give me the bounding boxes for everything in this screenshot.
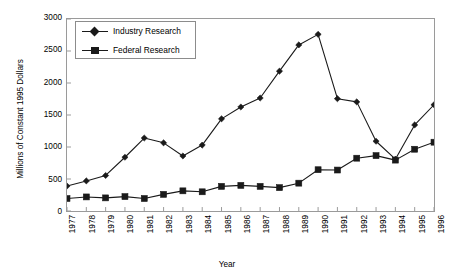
legend-item-industry-research: Industry Research	[76, 22, 195, 41]
data-point-square	[412, 146, 418, 152]
data-point-square	[276, 185, 282, 191]
y-tick-label: 2500	[36, 46, 62, 54]
data-point-square	[354, 155, 360, 161]
data-point-square	[83, 194, 89, 200]
data-point-square	[257, 183, 263, 189]
x-axis-title: Year	[0, 261, 454, 269]
data-point-square	[392, 157, 398, 163]
legend-label-federal-research: Federal Research	[108, 46, 180, 54]
legend-label-industry-research: Industry Research	[108, 27, 181, 35]
x-tick-label: 1991	[341, 215, 349, 255]
data-point-diamond	[180, 153, 186, 159]
data-point-square	[122, 194, 128, 200]
data-point-square	[334, 167, 340, 173]
square-marker-icon	[82, 45, 108, 57]
data-point-square	[431, 139, 434, 145]
x-tick-label: 1983	[186, 215, 194, 255]
x-tick-label: 1988	[283, 215, 291, 255]
data-point-square	[373, 153, 379, 159]
x-tick-label: 1989	[302, 215, 310, 255]
data-point-square	[238, 182, 244, 188]
data-point-diamond	[160, 140, 166, 146]
series-federal-research	[67, 139, 434, 201]
y-tick-label: 1000	[36, 143, 62, 151]
data-point-square	[296, 180, 302, 186]
x-tick-label: 1994	[399, 215, 407, 255]
data-point-diamond	[315, 31, 321, 37]
y-tick-label: 2000	[36, 79, 62, 87]
data-point-square	[103, 195, 109, 201]
y-axis-tick-labels: 050010001500200025003000	[36, 0, 62, 277]
x-tick-label: 1979	[108, 215, 116, 255]
data-point-square	[199, 189, 205, 195]
series-line	[67, 142, 434, 198]
data-point-square	[315, 167, 321, 173]
y-tick-label: 0	[36, 208, 62, 216]
x-tick-label: 1980	[127, 215, 135, 255]
data-point-square	[141, 196, 147, 202]
chart-legend: Industry Research Federal Research	[75, 21, 196, 59]
data-point-diamond	[83, 178, 89, 184]
y-axis-title-text: Millions of Constant 1995 Dollars	[17, 59, 25, 179]
line-chart: Millions of Constant 1995 Dollars 050010…	[0, 0, 454, 277]
x-tick-label: 1992	[361, 215, 369, 255]
data-point-diamond	[334, 96, 340, 102]
y-axis-title: Millions of Constant 1995 Dollars	[14, 44, 28, 194]
data-point-square	[180, 188, 186, 194]
data-point-diamond	[67, 183, 70, 189]
y-tick-label: 500	[36, 176, 62, 184]
x-tick-label: 1995	[419, 215, 427, 255]
x-tick-label: 1984	[205, 215, 213, 255]
x-tick-label: 1981	[147, 215, 155, 255]
legend-item-federal-research: Federal Research	[76, 41, 195, 60]
y-tick-label: 1500	[36, 111, 62, 119]
diamond-marker-icon	[82, 26, 108, 38]
x-tick-label: 1996	[438, 215, 446, 255]
data-point-square	[67, 196, 70, 202]
x-tick-label: 1993	[380, 215, 388, 255]
x-tick-label: 1977	[69, 215, 77, 255]
x-tick-label: 1986	[244, 215, 252, 255]
data-point-diamond	[354, 99, 360, 105]
data-point-square	[161, 191, 167, 197]
x-axis-tick-labels: 1977197819791980198119821983198419851986…	[66, 213, 435, 259]
x-tick-label: 1990	[322, 215, 330, 255]
data-point-diamond	[238, 104, 244, 110]
y-tick-label: 3000	[36, 14, 62, 22]
x-tick-label: 1987	[263, 215, 271, 255]
x-tick-label: 1978	[89, 215, 97, 255]
data-point-square	[219, 183, 225, 189]
x-tick-label: 1985	[225, 215, 233, 255]
x-tick-label: 1982	[166, 215, 174, 255]
